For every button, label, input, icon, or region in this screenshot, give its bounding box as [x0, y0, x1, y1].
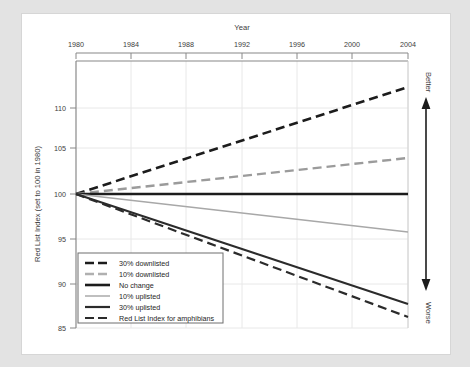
legend-label: 30% downlisted: [119, 259, 169, 268]
legend-label: 10% downlisted: [119, 270, 169, 279]
y-tick-label: 85: [58, 324, 66, 333]
x-axis-top: [76, 53, 408, 59]
better-label: Better: [424, 72, 433, 93]
direction-arrow-up-head: [422, 97, 431, 109]
y-tick-label: 95: [58, 235, 66, 244]
x-tick-label: 1984: [123, 40, 139, 49]
figure-root: 1980 1984 1988 1992 1996 2000 2004 Year: [0, 0, 470, 367]
x-tick-label: 2000: [344, 40, 360, 49]
figure-card: 1980 1984 1988 1992 1996 2000 2004 Year: [22, 14, 450, 354]
y-tick-label: 105: [54, 144, 66, 153]
y-tick-label: 110: [55, 104, 66, 113]
x-tick-label: 1988: [178, 40, 194, 49]
legend-label: 30% uplisted: [119, 303, 160, 312]
y-tick-label: 100: [54, 190, 66, 199]
worse-label: Worse: [424, 302, 433, 324]
legend-label: Red List Index for amphibians: [119, 314, 214, 323]
y-tick-label: 90: [58, 280, 66, 289]
x-axis-title: Year: [234, 23, 250, 32]
x-tick-label: 1992: [234, 40, 250, 49]
x-tick-label: 2004: [400, 40, 416, 49]
legend-label: No change: [119, 281, 154, 290]
x-tick-label: 1996: [289, 40, 305, 49]
x-tick-labels: 1980 1984 1988 1992 1996 2000 2004: [68, 40, 416, 49]
x-tick-label: 1980: [68, 40, 84, 49]
y-axis-ticks: [70, 108, 76, 328]
direction-annotations: Better Worse: [422, 72, 433, 324]
direction-arrow-down-head: [422, 279, 431, 291]
y-tick-labels: 110 105 100 95 90 85: [54, 104, 66, 333]
chart-legend: 30% downlisted 10% downlisted No change …: [78, 253, 223, 323]
legend-label: 10% uplisted: [119, 292, 160, 301]
red-list-index-chart: 1980 1984 1988 1992 1996 2000 2004 Year: [22, 14, 450, 354]
y-axis-title: Red List Index (set to 100 in 1980): [33, 145, 42, 262]
